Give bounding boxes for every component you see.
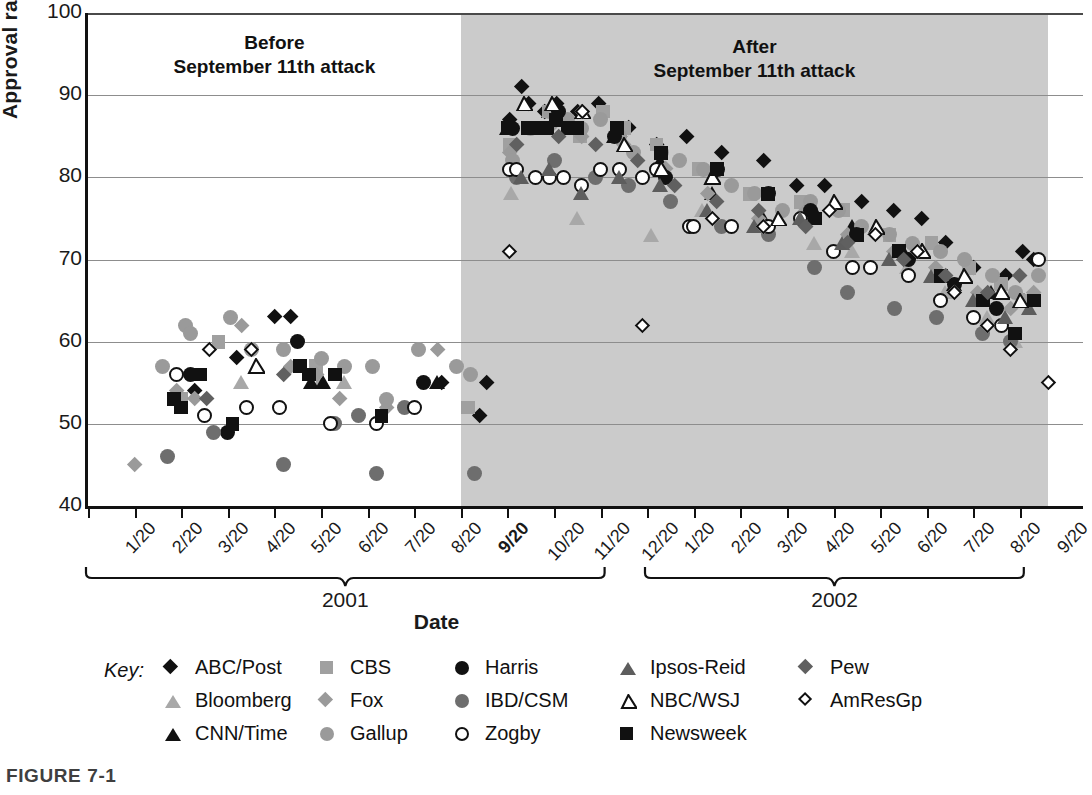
point-bloomberg: [806, 236, 822, 250]
figure-caption: FIGURE 7-1: [6, 765, 117, 787]
legend-marker-icon: [320, 694, 331, 705]
point-newsweek: [302, 368, 316, 382]
point-cnntime: [429, 375, 445, 389]
point-gallup: [933, 244, 948, 259]
point-zogby: [593, 162, 608, 177]
point-bloomberg: [233, 375, 249, 389]
x-tick-mark-10: [554, 506, 556, 518]
x-tick-mark-5: [321, 506, 323, 518]
x-tick-mark-8: [461, 506, 463, 518]
legend-label: CNN/Time: [195, 722, 288, 745]
legend-label: Gallup: [350, 722, 408, 745]
x-tick-label-13: 2/20: [727, 518, 766, 558]
x-tick-mark-16: [834, 506, 836, 518]
y-tick-50: 50: [38, 410, 82, 434]
x-tick-label-9: 10/20: [544, 518, 590, 565]
legend-label: NBC/WSJ: [650, 689, 740, 712]
legend-label: Zogby: [485, 722, 541, 745]
x-tick-mark-18: [927, 506, 929, 518]
panel-after-line2: September 11th attack: [461, 59, 1048, 83]
point-newsweek: [375, 409, 389, 423]
y-axis-line: [85, 13, 88, 507]
x-tick-mark-9: [507, 506, 509, 518]
x-tick-mark-19: [973, 506, 975, 518]
point-newsweek: [328, 368, 342, 382]
x-tick-mark-14: [740, 506, 742, 518]
point-cbs: [461, 401, 475, 415]
point-ibdcsm: [351, 408, 366, 423]
legend-label: Bloomberg: [195, 689, 292, 712]
x-tick-label-4: 5/20: [308, 518, 347, 558]
x-tick-mark-7: [414, 506, 416, 518]
point-zogby: [845, 260, 860, 275]
x-axis-line: [85, 506, 1083, 509]
y-tick-70: 70: [38, 246, 82, 270]
x-tick-mark-0: [88, 506, 90, 518]
point-zogby: [556, 170, 571, 185]
y-tick-100: 100: [38, 0, 82, 23]
legend-marker-icon: [320, 727, 334, 741]
point-newsweek: [226, 417, 240, 431]
point-zogby: [724, 219, 739, 234]
x-tick-label-1: 2/20: [168, 518, 207, 558]
legend-marker-icon: [620, 661, 636, 679]
legend-label: AmResGp: [830, 689, 922, 712]
x-tick-label-0: 1/20: [121, 518, 160, 558]
legend-marker-icon: [800, 661, 811, 672]
point-gallup: [449, 359, 464, 374]
point-ipsosreid: [541, 162, 557, 176]
panel-label-before: Before September 11th attack: [88, 31, 461, 79]
legend-label: Ipsos-Reid: [650, 656, 746, 679]
x-tick-mark-1: [135, 506, 137, 518]
y-tick-90: 90: [38, 81, 82, 105]
x-tick-label-7: 8/20: [447, 518, 486, 558]
plot-area: Before September 11th attack After Septe…: [88, 13, 1083, 506]
point-newsweek: [761, 187, 775, 201]
panel-label-after: After September 11th attack: [461, 35, 1048, 83]
x-tick-label-8: 9/20: [494, 518, 533, 558]
x-tick-label-2: 3/20: [214, 518, 253, 558]
point-zogby: [901, 268, 916, 283]
point-gallup: [314, 351, 329, 366]
x-tick-label-10: 11/20: [590, 518, 635, 564]
x-tick-label-15: 4/20: [820, 518, 859, 558]
axis-top: [88, 13, 1083, 15]
gridline-90: [88, 95, 1083, 96]
x-axis-title: Date: [0, 610, 978, 634]
point-newsweek: [1027, 294, 1041, 308]
point-ibdcsm: [467, 466, 482, 481]
x-tick-label-20: 9/20: [1053, 518, 1092, 558]
point-gallup: [985, 268, 1000, 283]
legend-marker-icon: [620, 727, 633, 740]
legend-label: Pew: [830, 656, 869, 679]
point-gallup: [365, 359, 380, 374]
x-tick-label-18: 7/20: [960, 518, 999, 558]
x-tick-label-11: 12/20: [637, 518, 683, 565]
year-brace-2001: [84, 566, 607, 588]
legend-marker-icon: [800, 694, 810, 704]
y-axis-tick-labels: 405060708090100: [0, 0, 82, 520]
point-gallup: [463, 367, 478, 382]
legend-marker-icon: [165, 661, 176, 672]
point-zogby: [169, 367, 184, 382]
legend-label: Newsweek: [650, 722, 747, 745]
point-gallup: [223, 310, 238, 325]
x-tick-label-19: 8/20: [1007, 518, 1046, 558]
year-brace-2002: [643, 566, 1026, 588]
point-ibdcsm: [840, 285, 855, 300]
point-newsweek: [610, 121, 624, 135]
panel-before-line1: Before: [88, 31, 461, 55]
x-tick-mark-11: [601, 506, 603, 518]
point-bloomberg: [643, 228, 659, 242]
point-ibdcsm: [887, 301, 902, 316]
x-tick-mark-2: [181, 506, 183, 518]
point-zogby: [966, 310, 981, 325]
point-ibdcsm: [160, 449, 175, 464]
x-tick-label-12: 1/20: [680, 518, 719, 558]
year-label-2002: 2002: [643, 588, 1026, 612]
legend-label: IBD/CSM: [485, 689, 568, 712]
point-zogby: [239, 400, 254, 415]
legend-label: Harris: [485, 656, 538, 679]
point-newsweek: [193, 368, 207, 382]
y-tick-60: 60: [38, 328, 82, 352]
